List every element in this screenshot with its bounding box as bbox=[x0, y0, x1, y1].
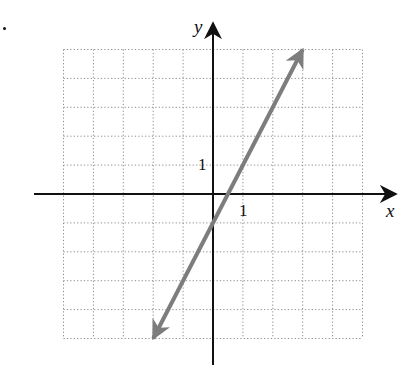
x-axis-label: x bbox=[386, 200, 394, 222]
axes bbox=[34, 23, 396, 365]
y-axis-label: y bbox=[194, 16, 202, 38]
y-tick-label-1: 1 bbox=[198, 155, 207, 175]
x-tick-label-1: 1 bbox=[239, 201, 248, 221]
coordinate-plane bbox=[0, 0, 415, 369]
